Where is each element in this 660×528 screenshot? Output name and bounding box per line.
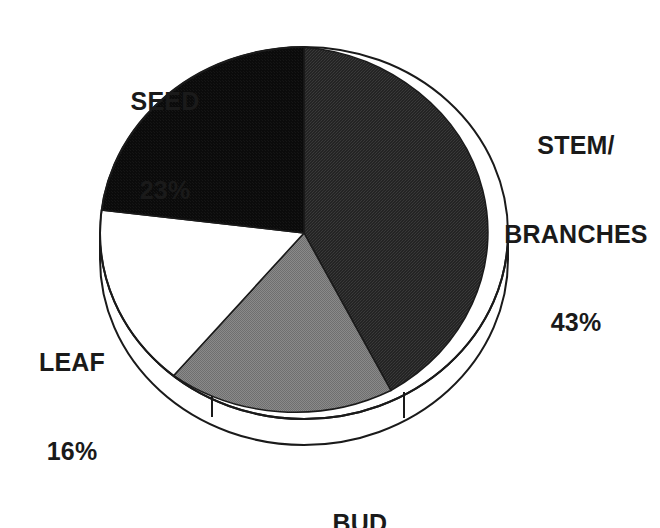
- slice-label-bud-name: BUD: [296, 509, 424, 528]
- slice-label-stem-branches-name-line1: STEM/: [492, 131, 660, 161]
- slice-label-stem-branches-value: 43%: [492, 308, 660, 338]
- slice-label-stem-branches: STEM/ BRANCHES 43%: [492, 72, 660, 397]
- slice-label-seed-name: SEED: [100, 87, 230, 117]
- slice-label-stem-branches-name-line2: BRANCHES: [492, 220, 660, 250]
- slice-label-leaf-value: 16%: [16, 437, 128, 467]
- slice-label-leaf-name: LEAF: [16, 348, 128, 378]
- pie-chart-figure: SEED 23% STEM/ BRANCHES 43% LEAF 16% BUD…: [0, 0, 660, 528]
- slice-label-bud: BUD 18%: [296, 450, 424, 528]
- slice-label-leaf: LEAF 16%: [16, 289, 128, 525]
- slice-label-seed-value: 23%: [100, 176, 230, 206]
- slice-label-seed: SEED 23%: [100, 28, 230, 264]
